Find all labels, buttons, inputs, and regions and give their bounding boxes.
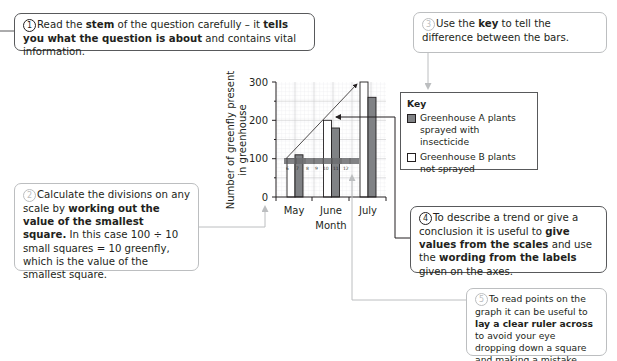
bar-july-b	[360, 82, 368, 197]
svg-text:6: 6	[286, 166, 289, 171]
callout-3: 3Use the key to tell the difference betw…	[413, 12, 607, 53]
bar-july-a	[368, 97, 376, 197]
svg-text:11: 11	[333, 166, 339, 171]
x-label-june: June	[319, 205, 342, 216]
callout-number-3: 3	[422, 18, 435, 31]
x-axis-title: Month	[315, 220, 346, 231]
callout-4: 4To describe a trend or give a conclusio…	[410, 206, 607, 273]
svg-text:8: 8	[306, 166, 309, 171]
callout-number-5: 5	[475, 293, 488, 306]
svg-text:9: 9	[315, 166, 318, 171]
callout-1: 1Read the stem of the question carefully…	[14, 13, 315, 51]
callout-5: 5To read points on the graph it can be u…	[466, 288, 607, 356]
svg-text:12: 12	[343, 166, 349, 171]
y-axis-title-line1: Number of greenfly present	[225, 71, 236, 210]
y-tick-100: 100	[249, 153, 268, 164]
y-tick-200: 200	[249, 115, 268, 126]
callout-number-4: 4	[419, 212, 432, 225]
callout-number-2: 2	[23, 189, 36, 202]
svg-text:10: 10	[323, 166, 329, 171]
swatch-white-icon	[407, 153, 416, 162]
key-item-greenhouse-a: Greenhouse A plants sprayed with insecti…	[407, 112, 531, 148]
callout-2: 2Calculate the divisions on any scale by…	[14, 183, 199, 271]
y-axis-title-line2: in greenhouse	[237, 104, 248, 175]
bar-may-b	[287, 159, 295, 197]
svg-text:7: 7	[296, 166, 299, 171]
chart-plot-area: 67 89 1011 12 300 200 100 0 May June Jul…	[225, 71, 386, 231]
callout-number-1: 1	[23, 19, 36, 32]
key-title: Key	[407, 98, 531, 110]
x-label-july: July	[358, 205, 377, 216]
swatch-grey-icon	[407, 114, 416, 123]
key-item-greenhouse-b: Greenhouse B plants not sprayed	[407, 151, 531, 175]
y-tick-0: 0	[262, 192, 268, 203]
y-tick-300: 300	[249, 77, 268, 88]
chart-key: Key Greenhouse A plants sprayed with ins…	[400, 92, 538, 170]
x-label-may: May	[284, 205, 305, 216]
